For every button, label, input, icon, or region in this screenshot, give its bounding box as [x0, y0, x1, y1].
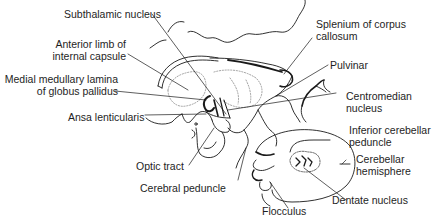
label-ansa-lenticularis: Ansa lenticularis — [68, 111, 144, 123]
brainstem-outline — [236, 110, 277, 168]
brain-anatomy-diagram: Subthalamic nucleus Anterior limb of int… — [0, 0, 433, 218]
label-cerebellar-hemisphere-line1: Cerebellar — [356, 153, 404, 165]
optic-region — [146, 111, 230, 157]
label-flocculus: Flocculus — [262, 205, 306, 217]
label-cerebral-peduncle: Cerebral peduncle — [140, 182, 226, 194]
subthalamic-region — [204, 96, 230, 118]
label-centromedian-line1: Centromedian — [346, 90, 412, 102]
label-medial-medullary-line2: of globus pallidus — [4, 85, 118, 97]
label-inferior-cerebellar-line1: Inferior cerebellar — [349, 124, 431, 136]
label-inferior-cerebellar-line2: peduncle — [349, 136, 392, 148]
label-cerebellar-hemisphere-line2: hemisphere — [356, 165, 411, 177]
label-subthalamic-nucleus: Subthalamic nucleus — [64, 8, 161, 20]
label-splenium-line1: Splenium of corpus — [316, 18, 406, 30]
label-anterior-limb-line2: internal capsule — [50, 50, 126, 62]
label-splenium-line2: callosum — [316, 30, 357, 42]
leader-lines — [115, 14, 346, 208]
label-dentate-nucleus: Dentate nucleus — [332, 194, 408, 206]
label-anterior-limb-line1: Anterior limb of — [50, 38, 126, 50]
label-pulvinar: Pulvinar — [330, 59, 368, 71]
label-centromedian-line2: nucleus — [346, 102, 382, 114]
cortical-surface-outline — [150, 0, 305, 48]
label-medial-medullary-line1: Medial medullary lamina — [4, 73, 118, 85]
label-optic-tract: Optic tract — [136, 160, 184, 172]
